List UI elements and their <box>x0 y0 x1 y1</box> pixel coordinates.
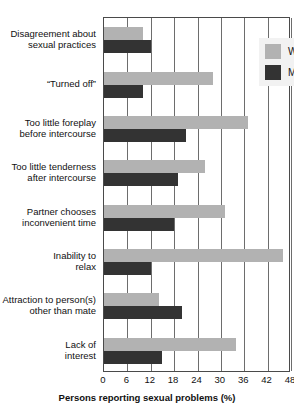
legend-item: Men <box>265 65 294 80</box>
bar-men <box>104 129 186 142</box>
y-axis-label: Partner choosesinconvenient time <box>0 206 96 228</box>
y-axis-label: Disagreement aboutsexual practices <box>0 28 96 50</box>
bar-women <box>104 72 213 85</box>
y-axis-label-line: Attraction to person(s) <box>0 294 96 305</box>
bar-men <box>104 85 143 98</box>
bar-group <box>104 196 289 240</box>
bar-women <box>104 205 225 218</box>
legend-label: Women <box>288 46 294 57</box>
x-axis-tick-48: 48 <box>285 374 294 385</box>
y-axis-label: Too little foreplaybefore intercourse <box>0 117 96 139</box>
y-axis-label-line: after intercourse <box>0 172 96 183</box>
y-axis-label-line: Too little foreplay <box>0 117 96 128</box>
x-axis-tick-42: 42 <box>261 374 272 385</box>
y-axis-label-line: other than mate <box>0 305 96 316</box>
bar-group <box>104 107 289 151</box>
y-axis-label-line: interest <box>0 350 96 361</box>
y-axis-label-line: Partner chooses <box>0 206 96 217</box>
y-axis-label: “Turned off” <box>0 78 96 89</box>
bar-women <box>104 338 236 351</box>
x-axis-tick-30: 30 <box>215 374 226 385</box>
y-axis-label-line: “Turned off” <box>0 78 96 89</box>
bar-group <box>104 284 289 328</box>
y-axis-label-line: Inability to <box>0 250 96 261</box>
x-axis-title: Persons reporting sexual problems (%) <box>0 392 294 403</box>
bar-group <box>104 240 289 284</box>
y-axis-label: Inability torelax <box>0 250 96 272</box>
y-axis-label: Too little tendernessafter intercourse <box>0 161 96 183</box>
y-axis-label: Lack ofinterest <box>0 339 96 361</box>
x-axis-tick-36: 36 <box>238 374 249 385</box>
y-axis-label-line: relax <box>0 261 96 272</box>
legend-item: Women <box>265 44 294 59</box>
y-axis-label-line: Too little tenderness <box>0 161 96 172</box>
bar-men <box>104 351 162 364</box>
bar-men <box>104 262 151 275</box>
legend-swatch-icon <box>265 44 281 59</box>
x-axis-tick-0: 0 <box>100 374 105 385</box>
y-axis-labels: Disagreement aboutsexual practices“Turne… <box>0 17 100 372</box>
bar-women <box>104 293 159 306</box>
bar-group <box>104 151 289 195</box>
x-axis-tick-12: 12 <box>144 374 155 385</box>
bar-women <box>104 27 143 40</box>
bar-women <box>104 249 283 262</box>
bar-group <box>104 329 289 373</box>
x-axis-tick-24: 24 <box>191 374 202 385</box>
bar-men <box>104 306 182 319</box>
bar-women <box>104 116 248 129</box>
x-axis-tick-18: 18 <box>168 374 179 385</box>
y-axis-label-line: inconvenient time <box>0 217 96 228</box>
chart-legend: WomenMen <box>259 38 294 86</box>
bar-chart: Disagreement aboutsexual practices“Turne… <box>0 0 294 410</box>
bar-men <box>104 173 178 186</box>
x-axis-ticks: 0612182430364248 <box>103 374 290 388</box>
legend-label: Men <box>288 67 294 78</box>
x-axis-tick-6: 6 <box>124 374 129 385</box>
legend-swatch-icon <box>265 65 281 80</box>
bar-men <box>104 218 174 231</box>
y-axis-label-line: Disagreement about <box>0 28 96 39</box>
plot-area: WomenMen <box>103 17 290 372</box>
bar-men <box>104 40 151 53</box>
y-axis-label-line: sexual practices <box>0 39 96 50</box>
y-axis-label-line: before intercourse <box>0 128 96 139</box>
bar-women <box>104 160 205 173</box>
y-axis-label-line: Lack of <box>0 339 96 350</box>
y-axis-label: Attraction to person(s)other than mate <box>0 294 96 316</box>
